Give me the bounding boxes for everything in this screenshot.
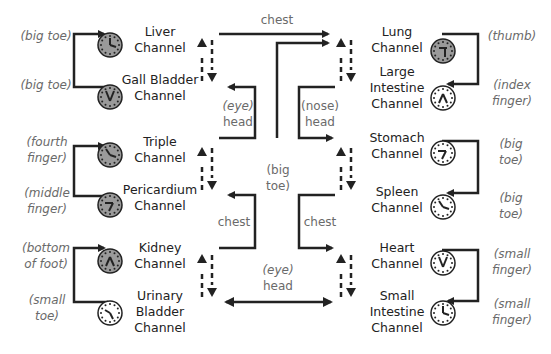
clock-lung-icon <box>431 39 455 63</box>
label-line: Small <box>362 288 432 304</box>
note-line: (small <box>484 296 540 312</box>
note-large-intestine-point: (index finger) <box>484 77 540 109</box>
label-line: Channel <box>115 198 205 214</box>
clock-large-intestine-icon <box>431 86 455 110</box>
label-line: Kidney <box>125 240 195 256</box>
note-line: of foot) <box>18 256 74 272</box>
label-line: Intestine <box>362 304 432 320</box>
region-line: head <box>298 114 342 130</box>
note-line: (fourth <box>24 134 70 150</box>
label-urinary-bladder-channel: Urinary Bladder Channel <box>125 288 195 336</box>
label-kidney-channel: Kidney Channel <box>125 240 195 272</box>
label-line: Channel <box>125 150 195 166</box>
center-label-left-chest: chest <box>212 214 256 230</box>
clock-stomach-icon <box>431 141 455 165</box>
note-line: (middle <box>24 185 70 201</box>
clock-small-intestine-icon <box>431 301 455 325</box>
note-liver-point: (big toe) <box>20 28 72 44</box>
label-line: Channel <box>362 256 432 272</box>
label-triple-channel: Triple Channel <box>125 134 195 166</box>
clock-urinary-bladder-icon <box>98 301 122 325</box>
label-line: Heart <box>362 240 432 256</box>
note-line: toe) <box>488 206 534 222</box>
label-line: Pericardium <box>115 182 205 198</box>
note-small-intestine-point: (small finger) <box>484 296 540 328</box>
center-label-bottom-eye-head: (eye) head <box>258 262 298 294</box>
region-line: (eye) <box>218 98 258 114</box>
label-line: Channel <box>125 256 195 272</box>
note-line: toe) <box>488 152 534 168</box>
center-label-left-eye-head: (eye) head <box>218 98 258 130</box>
note-triple-point: (fourth finger) <box>24 134 70 166</box>
label-line: Spleen <box>362 184 432 200</box>
label-stomach-channel: Stomach Channel <box>362 130 432 162</box>
label-small-intestine-channel: Small Intestine Channel <box>362 288 432 336</box>
label-gall-bladder-channel: Gall Bladder Channel <box>115 72 205 104</box>
note-line: (bottom <box>18 240 74 256</box>
note-line: (big <box>488 190 534 206</box>
label-line: Urinary <box>125 288 195 304</box>
note-heart-point: (small finger) <box>484 246 540 278</box>
label-line: Channel <box>362 40 432 56</box>
region-line: (nose) <box>298 98 342 114</box>
center-label-top-chest: chest <box>252 12 302 28</box>
label-line: Intestine <box>362 80 432 96</box>
clock-heart-icon <box>431 251 455 275</box>
center-label-right-chest: chest <box>298 214 342 230</box>
region-line: head <box>218 114 258 130</box>
note-line: finger) <box>24 150 70 166</box>
region-line: toe) <box>258 178 298 194</box>
label-line: Bladder <box>125 304 195 320</box>
label-line: Triple <box>125 134 195 150</box>
region-line: (big <box>258 162 298 178</box>
note-lung-point: (thumb) <box>482 28 542 44</box>
label-line: Channel <box>362 146 432 162</box>
clock-triple-icon <box>98 143 122 167</box>
note-line: (index <box>484 77 540 93</box>
label-large-intestine-channel: Large Intestine Channel <box>362 64 432 112</box>
clock-kidney-icon <box>98 249 122 273</box>
note-line: (small <box>484 246 540 262</box>
label-line: Channel <box>115 88 205 104</box>
label-line: Channel <box>362 200 432 216</box>
region-line: (eye) <box>258 262 298 278</box>
center-label-right-nose-head: (nose) head <box>298 98 342 130</box>
region-line: head <box>258 278 298 294</box>
note-stomach-point: (big toe) <box>488 136 534 168</box>
label-line: Lung <box>362 24 432 40</box>
label-line: Channel <box>125 320 195 336</box>
label-line: Channel <box>362 96 432 112</box>
label-line: Channel <box>362 320 432 336</box>
note-line: (small <box>24 292 70 308</box>
label-spleen-channel: Spleen Channel <box>362 184 432 216</box>
note-line: finger) <box>484 262 540 278</box>
note-kidney-point: (bottom of foot) <box>18 240 74 272</box>
clock-liver-icon <box>98 33 122 57</box>
note-line: finger) <box>484 312 540 328</box>
note-line: finger) <box>24 201 70 217</box>
label-pericardium-channel: Pericardium Channel <box>115 182 205 214</box>
note-line: toe) <box>24 308 70 324</box>
label-line: Liver <box>125 24 195 40</box>
label-line: Gall Bladder <box>115 72 205 88</box>
note-line: (big <box>488 136 534 152</box>
note-urinary-bladder-point: (small toe) <box>24 292 70 324</box>
label-line: Channel <box>125 40 195 56</box>
note-line: finger) <box>484 93 540 109</box>
label-line: Stomach <box>362 130 432 146</box>
label-lung-channel: Lung Channel <box>362 24 432 56</box>
label-heart-channel: Heart Channel <box>362 240 432 272</box>
note-pericardium-point: (middle finger) <box>24 185 70 217</box>
clock-spleen-icon <box>431 195 455 219</box>
label-liver-channel: Liver Channel <box>125 24 195 56</box>
label-line: Large <box>362 64 432 80</box>
note-gall-bladder-point: (big toe) <box>20 77 72 93</box>
note-spleen-point: (big toe) <box>488 190 534 222</box>
center-label-big-toe: (big toe) <box>258 162 298 194</box>
